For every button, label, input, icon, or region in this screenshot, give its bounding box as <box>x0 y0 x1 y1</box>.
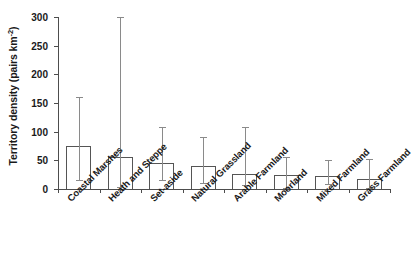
x-axis-tick <box>183 189 184 193</box>
error-bar-cap-upper <box>242 127 249 128</box>
y-axis-tick-label: 0 <box>42 184 48 195</box>
error-bar-line <box>120 17 121 187</box>
error-bar-line <box>79 97 80 180</box>
error-bar-cap-upper <box>366 159 373 160</box>
y-axis-tick-label: 300 <box>31 12 48 23</box>
x-axis-tick <box>58 189 59 193</box>
error-bar-cap-upper <box>76 97 83 98</box>
y-axis-title-exponent: -2 <box>6 30 15 36</box>
y-axis-tick-label: 250 <box>31 40 48 51</box>
x-axis-tick <box>141 189 142 193</box>
y-axis-tick: 100 <box>54 132 58 133</box>
y-axis-tick: 300 <box>54 17 58 18</box>
y-axis-title-prefix: Territory density (pairs km <box>7 36 19 165</box>
x-axis-labels: Coastal MarshesHeath and SteppeSet-aside… <box>58 196 398 267</box>
error-bar-cap-upper <box>325 160 332 161</box>
y-axis-tick-label: 100 <box>31 126 48 137</box>
x-axis-tick <box>266 189 267 193</box>
error-bar-cap-upper <box>159 127 166 128</box>
error-bar-line <box>203 137 204 182</box>
x-axis-tick <box>307 189 308 193</box>
y-axis-tick: 150 <box>54 103 58 104</box>
y-axis-tick: 250 <box>54 46 58 47</box>
y-axis-tick-label: 150 <box>31 98 48 109</box>
y-axis-title: Territory density (pairs km-2) <box>4 0 22 196</box>
y-axis-tick: 50 <box>54 160 58 161</box>
y-axis-line <box>58 17 59 189</box>
error-bar-line <box>245 127 246 185</box>
x-axis-tick <box>390 189 391 193</box>
x-axis-tick <box>349 189 350 193</box>
x-axis-tick <box>100 189 101 193</box>
y-axis-tick: 200 <box>54 74 58 75</box>
y-axis-tick-label: 200 <box>31 69 48 80</box>
error-bar-cap-upper <box>200 137 207 138</box>
y-axis-title-suffix: ) <box>7 27 19 30</box>
x-axis-tick <box>224 189 225 193</box>
y-axis-tick-label: 50 <box>37 155 48 166</box>
error-bar-cap-upper <box>117 17 124 18</box>
